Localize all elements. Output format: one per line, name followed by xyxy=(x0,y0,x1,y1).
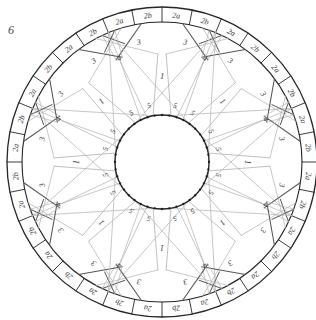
label-inner-wedge-4: 5 xyxy=(214,172,224,178)
label-rim-a-11: 2a xyxy=(16,200,27,210)
label-rim-b-12: 2b xyxy=(16,114,27,124)
label-rim-a-7: 2a xyxy=(200,297,210,308)
label-inner-wedge-8: 5 xyxy=(146,214,152,224)
diagram-canvas: 6 11111111555555555555555544444444333333… xyxy=(0,0,316,320)
label-outer-triangle-10: 3 xyxy=(56,226,66,235)
label-rim-b-3: 2b xyxy=(303,143,313,152)
label-star-point-2: 1 xyxy=(243,160,253,164)
label-star-point-3: 1 xyxy=(218,218,228,228)
inner-circle-beads xyxy=(114,114,210,210)
label-rim-a-8: 2a xyxy=(143,303,152,313)
label-star-point-0: 1 xyxy=(160,71,164,81)
label-inner-wedge-6: 5 xyxy=(189,206,197,216)
label-rim-b-11: 2b xyxy=(11,172,21,181)
label-outer-triangle-4: 3 xyxy=(277,181,287,188)
label-outer-triangle-2: 3 xyxy=(258,89,268,98)
rosette-svg: 1111111155555555555555554444444433333333… xyxy=(0,0,316,320)
label-outer-triangle-3: 3 xyxy=(277,135,287,142)
label-rim-b-13: 2b xyxy=(42,63,54,75)
label-outer-triangle-6: 3 xyxy=(226,258,235,268)
label-rim-a-15: 2a xyxy=(114,16,124,27)
label-inner-wedge-14: 5 xyxy=(127,108,135,118)
label-outer-triangle-9: 3 xyxy=(90,258,99,268)
label-outer-triangle-13: 3 xyxy=(55,90,65,99)
label-rim-b-7: 2b xyxy=(172,303,181,313)
label-outer-triangle-8: 3 xyxy=(136,277,143,287)
label-outer-triangle-12: 3 xyxy=(37,136,47,143)
label-outer-triangle-5: 3 xyxy=(258,225,268,234)
label-rim-a-2: 2a xyxy=(270,63,282,75)
label-rim-b-5: 2b xyxy=(270,249,282,261)
label-star-point-1: 1 xyxy=(218,96,228,106)
label-rim-b-4: 2b xyxy=(297,200,308,210)
label-rim-a-3: 2a xyxy=(297,114,308,124)
label-rim-a-1: 2a xyxy=(226,26,237,38)
label-outer-triangle-0: 3 xyxy=(181,37,188,47)
label-outer-triangle-1: 3 xyxy=(225,55,234,65)
label-rim-a-12: 2a xyxy=(11,143,21,152)
label-rim-b-6: 2b xyxy=(226,286,237,298)
label-outer-triangle-14: 3 xyxy=(89,56,98,66)
label-outer-triangle-15: 3 xyxy=(135,37,142,47)
label-star-point-7: 1 xyxy=(96,96,106,106)
label-outer-triangle-7: 3 xyxy=(182,277,189,287)
label-star-point-5: 1 xyxy=(96,218,106,228)
label-inner-wedge-2: 5 xyxy=(206,127,216,135)
label-rim-a-5: 2a xyxy=(286,226,298,237)
label-rim-b-10: 2b xyxy=(26,226,38,237)
label-rim-b-1: 2b xyxy=(249,42,261,54)
label-rim-b-9: 2b xyxy=(63,270,75,282)
label-inner-wedge-10: 5 xyxy=(108,189,118,197)
label-rim-b-2: 2b xyxy=(286,87,298,98)
label-inner-wedge-0: 5 xyxy=(172,101,178,111)
label-rim-a-10: 2a xyxy=(42,249,54,261)
label-star-point-4: 1 xyxy=(160,243,164,253)
label-rim-a-13: 2a xyxy=(26,87,38,98)
label-rim-b-14: 2b xyxy=(87,26,98,38)
label-inner-wedge-12: 5 xyxy=(101,146,111,152)
label-rim-b-0: 2b xyxy=(200,16,210,27)
label-rim-b-15: 2b xyxy=(143,11,152,21)
label-rim-a-9: 2a xyxy=(87,286,98,298)
label-rim-a-14: 2a xyxy=(63,42,75,54)
label-rim-b-8: 2b xyxy=(114,297,124,308)
label-rim-a-4: 2a xyxy=(303,172,313,181)
label-rim-a-6: 2a xyxy=(249,270,261,282)
label-outer-triangle-11: 3 xyxy=(37,182,47,189)
label-rim-a-0: 2a xyxy=(172,11,181,21)
label-star-point-6: 1 xyxy=(71,160,81,164)
figure-number: 6 xyxy=(8,24,14,36)
